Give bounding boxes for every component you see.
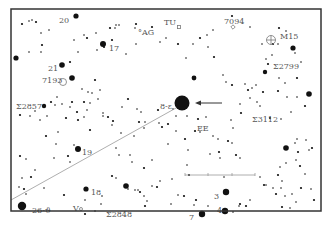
faint-star (111, 175, 113, 177)
faint-star (63, 194, 65, 196)
bright-star (263, 70, 267, 74)
faint-star (300, 61, 302, 63)
bright-star (13, 55, 18, 60)
star-label-TU: TU (164, 18, 176, 27)
faint-star (183, 195, 185, 197)
faint-star (286, 96, 288, 98)
faint-star (56, 96, 58, 98)
star-chart: 20°AGTU7094M1517217193Σ2799Σ28578-εEEΣ31… (0, 0, 327, 235)
faint-star (232, 127, 234, 129)
faint-star (231, 142, 233, 144)
faint-star (83, 101, 85, 103)
bright-star (123, 183, 129, 189)
faint-star (223, 176, 225, 178)
faint-star (230, 119, 232, 121)
faint-star (295, 201, 297, 203)
faint-star (206, 34, 208, 36)
faint-star (235, 154, 237, 156)
faint-star (76, 111, 78, 113)
faint-star (43, 187, 45, 189)
faint-star (291, 193, 293, 195)
faint-star (83, 116, 85, 118)
faint-star (177, 194, 179, 196)
faint-star (158, 122, 160, 124)
faint-star (81, 88, 83, 90)
faint-star (91, 92, 93, 94)
faint-star (111, 124, 113, 126)
faint-star (57, 131, 59, 133)
faint-star (29, 115, 31, 117)
faint-star (111, 39, 113, 41)
faint-star (175, 130, 177, 132)
bright-star (100, 41, 106, 47)
star-label-M15: M15 (280, 32, 298, 41)
faint-star (61, 103, 63, 105)
faint-star (95, 32, 97, 34)
faint-star (218, 151, 220, 153)
faint-star (219, 157, 221, 159)
faint-star (222, 74, 224, 76)
faint-star (239, 203, 241, 205)
faint-star (102, 115, 104, 117)
star-label-7: 7 (189, 213, 194, 222)
faint-star (249, 199, 251, 201)
star-label-AG: °AG (138, 28, 154, 37)
faint-star (296, 77, 298, 79)
faint-star (296, 96, 298, 98)
faint-star (161, 126, 163, 128)
faint-star (170, 203, 172, 205)
faint-star (102, 112, 104, 114)
star-label-18: 18 (91, 188, 101, 197)
faint-star (177, 43, 179, 45)
faint-star (138, 121, 140, 123)
faint-star (175, 115, 177, 117)
faint-star (184, 138, 186, 140)
faint-star (54, 104, 56, 106)
faint-star (137, 189, 139, 191)
faint-star (297, 151, 299, 153)
faint-star (99, 89, 101, 91)
faint-star (25, 158, 27, 160)
bright-star (175, 96, 190, 111)
faint-star (262, 91, 264, 93)
faint-star (277, 43, 279, 45)
faint-star (25, 193, 27, 195)
star-label-17: 17 (109, 44, 119, 53)
faint-star (45, 135, 47, 137)
faint-star (261, 43, 263, 45)
faint-star (84, 213, 86, 215)
faint-star (125, 53, 127, 55)
faint-star (127, 188, 129, 190)
faint-star (305, 139, 307, 141)
faint-star (195, 199, 197, 201)
faint-star (275, 193, 277, 195)
faint-star (97, 98, 99, 100)
faint-star (18, 186, 20, 188)
bright-star (75, 146, 81, 152)
faint-star (143, 167, 145, 169)
faint-star (86, 37, 88, 39)
faint-star (217, 138, 219, 140)
faint-star (249, 97, 251, 99)
bright-star (69, 75, 75, 81)
faint-star (255, 84, 257, 86)
faint-star (65, 117, 67, 119)
faint-star (281, 206, 283, 208)
faint-star (267, 63, 269, 65)
faint-star (272, 187, 274, 189)
faint-star (159, 180, 161, 182)
faint-star (21, 177, 23, 179)
faint-star (227, 140, 229, 142)
faint-star (207, 46, 209, 48)
faint-star (23, 188, 25, 190)
faint-star (277, 90, 279, 92)
faint-star (73, 39, 75, 41)
faint-star (238, 205, 240, 207)
faint-star (186, 164, 188, 166)
faint-star (157, 109, 159, 111)
faint-star (278, 27, 280, 29)
faint-star (46, 115, 48, 117)
bright-star (73, 13, 78, 18)
faint-star (165, 37, 167, 39)
bright-star (283, 145, 289, 151)
